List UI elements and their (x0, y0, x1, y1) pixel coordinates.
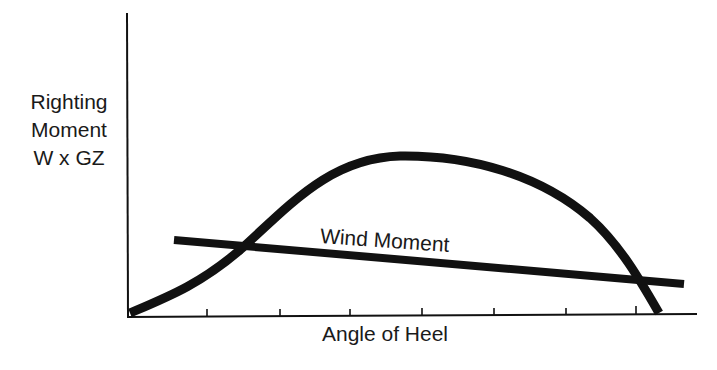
y-axis (127, 13, 128, 317)
x-axis-label: Angle of Heel (300, 322, 470, 346)
y-axis-label-line-3: W x GZ (14, 144, 124, 172)
stability-diagram (0, 0, 717, 370)
y-axis-label: Righting Moment W x GZ (14, 88, 124, 172)
y-axis-label-line-2: Moment (14, 116, 124, 144)
y-axis-label-line-1: Righting (14, 88, 124, 116)
x-axis (127, 314, 697, 317)
